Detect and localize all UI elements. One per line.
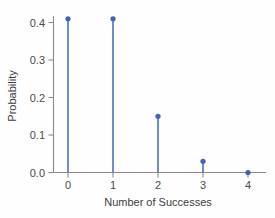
x-tick-label-4: 4 [245, 179, 251, 191]
data-point-x3 [200, 159, 205, 164]
y-tick-label-0.2: 0.2 [30, 92, 45, 104]
x-tick-label-3: 3 [200, 179, 206, 191]
x-tick-label-1: 1 [110, 179, 116, 191]
x-axis-title: Number of Successes [104, 196, 212, 208]
y-axis-group: 0.4 0.3 0.2 0.1 0.0 Probability [6, 16, 54, 179]
y-tick-label-0.3: 0.3 [30, 54, 45, 66]
data-point-x4 [245, 170, 250, 175]
data-point-x1 [110, 16, 115, 21]
y-tick-label-0.4: 0.4 [30, 17, 45, 29]
y-tick-label-0.0: 0.0 [30, 167, 45, 179]
data-point-x2 [155, 114, 160, 119]
chart-figure: 0.4 0.3 0.2 0.1 0.0 Probability 0 1 2 3 … [0, 0, 275, 218]
data-point-x0 [65, 16, 70, 21]
x-axis-group: 0 1 2 3 4 Number of Successes [54, 173, 267, 209]
stem-plot-svg: 0.4 0.3 0.2 0.1 0.0 Probability 0 1 2 3 … [0, 0, 275, 218]
y-tick-label-0.1: 0.1 [30, 129, 45, 141]
y-axis-title: Probability [6, 70, 18, 122]
stem-series-group [65, 16, 250, 175]
x-tick-label-0: 0 [65, 179, 71, 191]
x-tick-label-2: 2 [155, 179, 161, 191]
